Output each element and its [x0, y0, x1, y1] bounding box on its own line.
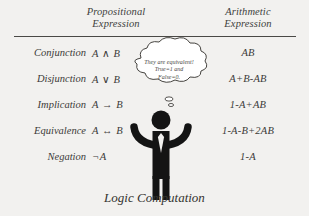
- column-header-propositional-line2: Expression: [58, 18, 174, 30]
- logic-computation-figure: Propositional Expression Arithmetic Expr…: [0, 0, 309, 216]
- table-row: Negation ¬A 1-A: [0, 145, 309, 171]
- header-divider-rule: [14, 36, 296, 37]
- figure-caption: Logic Computation: [0, 190, 309, 206]
- table-row: Equivalence A ↔ B 1-A-B+2AB: [0, 119, 309, 145]
- row-arithmetic-value: A+B-AB: [196, 73, 300, 84]
- row-arithmetic-value: 1-A+AB: [196, 99, 300, 110]
- row-propositional-value: A ↔ B: [92, 125, 150, 136]
- row-propositional-value: ¬A: [92, 151, 150, 162]
- row-arithmetic-value: AB: [196, 47, 300, 58]
- row-arithmetic-value: 1-A: [196, 151, 300, 162]
- row-label: Equivalence: [14, 125, 86, 136]
- column-header-propositional: Propositional Expression: [58, 6, 174, 29]
- row-propositional-value: A → B: [92, 99, 150, 110]
- thought-bubble-line1: They are equivalent!: [133, 59, 205, 66]
- table-row: Implication A → B 1-A+AB: [0, 93, 309, 119]
- row-label: Negation: [14, 151, 86, 162]
- row-label: Implication: [14, 99, 86, 110]
- column-header-arithmetic: Arithmetic Expression: [196, 6, 300, 29]
- row-label: Conjunction: [14, 47, 86, 58]
- row-arithmetic-value: 1-A-B+2AB: [196, 125, 300, 136]
- row-propositional-value: A ∧ B: [92, 47, 150, 59]
- row-label: Disjunction: [14, 73, 86, 84]
- thought-bubble-line3: False=0.: [133, 74, 205, 81]
- thought-bubble-line2: True=1 and: [133, 66, 205, 73]
- column-header-propositional-line1: Propositional: [87, 6, 146, 17]
- column-header-arithmetic-line2: Expression: [196, 18, 300, 30]
- column-header-arithmetic-line1: Arithmetic: [225, 6, 270, 17]
- thought-bubble-text: They are equivalent! True=1 and False=0.: [133, 59, 205, 81]
